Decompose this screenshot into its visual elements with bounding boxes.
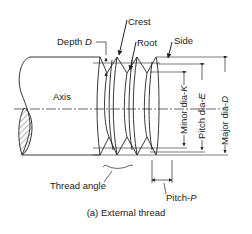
thread-drawing bbox=[0, 0, 252, 234]
crest-label: Crest bbox=[128, 17, 151, 27]
minor-dia-label: Minor dia-K bbox=[179, 85, 189, 134]
axis-label: Axis bbox=[53, 92, 71, 102]
pitch-label: Pitch-P bbox=[166, 193, 197, 203]
major-dia-label: Major dia-D bbox=[220, 96, 230, 145]
depth-label: Depth D bbox=[57, 37, 92, 47]
pitch-dia-label: Pitch dia-E bbox=[197, 93, 207, 139]
root-label: Root bbox=[137, 38, 157, 48]
external-thread-figure: Depth D Crest Root Side Axis Thread angl… bbox=[0, 0, 252, 234]
thread-angle-label: Thread angle bbox=[50, 181, 106, 191]
figure-caption: (a) External thread bbox=[0, 207, 252, 218]
side-label: Side bbox=[174, 36, 193, 46]
